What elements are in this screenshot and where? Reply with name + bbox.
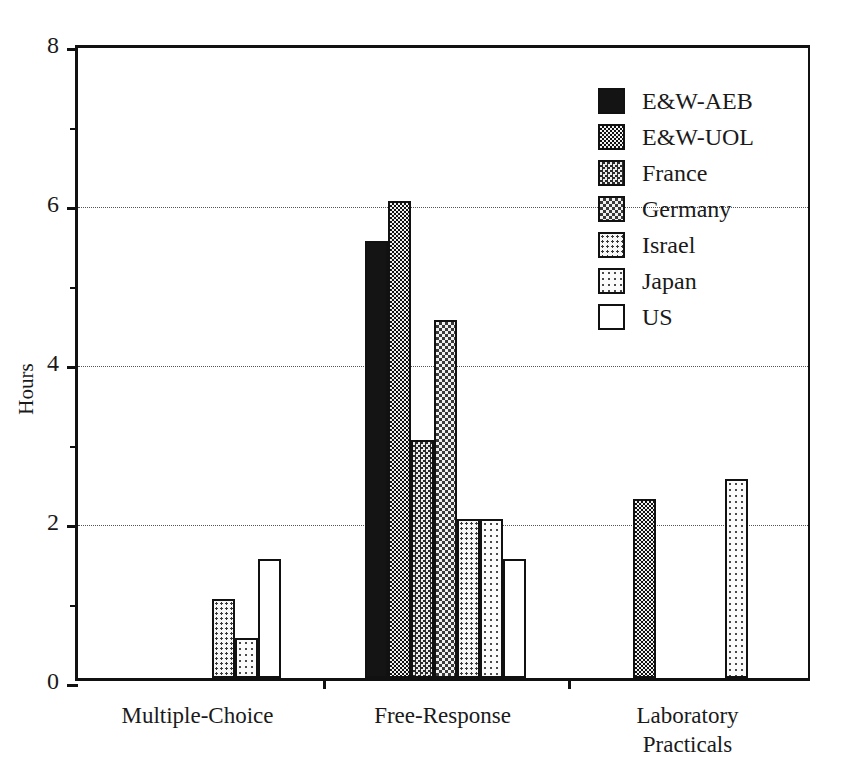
y-tick-label: 8 [47, 33, 59, 57]
y-tick-minor [70, 287, 78, 289]
bar [725, 479, 748, 678]
y-tick-major [67, 48, 78, 51]
legend-label: Israel [642, 233, 695, 257]
legend-label: Japan [642, 269, 697, 293]
x-group-label: Free-Response [374, 702, 511, 731]
legend-swatch-icon [598, 160, 625, 186]
legend-swatch-icon [598, 268, 625, 294]
y-tick-major [67, 684, 78, 687]
bar [388, 201, 411, 678]
y-tick-minor [70, 128, 78, 130]
legend-item: Japan [598, 264, 754, 298]
y-tick-label: 4 [47, 351, 59, 375]
x-group-label: Multiple-Choice [121, 702, 273, 731]
bar [235, 638, 258, 678]
y-tick-label: 2 [47, 510, 59, 534]
y-tick-major [67, 525, 78, 528]
y-axis-title: Hours [14, 363, 39, 414]
legend-swatch-icon [598, 88, 625, 114]
legend-swatch-icon [598, 124, 625, 150]
legend-label: France [642, 161, 707, 185]
legend-label: E&W-UOL [642, 125, 754, 149]
bar [258, 559, 281, 678]
bar-chart: Hours 02468 Multiple-ChoiceFree-Response… [0, 0, 861, 777]
bar [633, 499, 656, 678]
bar [212, 599, 235, 679]
legend-label: Germany [642, 197, 731, 221]
legend-item: France [598, 156, 754, 190]
bar [457, 519, 480, 678]
legend-item: E&W-UOL [598, 120, 754, 154]
legend-item: E&W-AEB [598, 84, 754, 118]
legend-item: Israel [598, 228, 754, 262]
y-tick-major [67, 366, 78, 369]
bar [480, 519, 503, 678]
bar [411, 440, 434, 679]
legend-swatch-icon [598, 304, 625, 330]
y-tick-major [67, 207, 78, 210]
bar [503, 559, 526, 678]
legend: E&W-AEBE&W-UOLFranceGermanyIsraelJapanUS [598, 84, 754, 336]
y-tick-minor [70, 605, 78, 607]
legend-swatch-icon [598, 196, 625, 222]
x-tick [323, 678, 326, 689]
legend-swatch-icon [598, 232, 625, 258]
y-tick-label: 0 [47, 669, 59, 693]
legend-label: E&W-AEB [642, 89, 753, 113]
x-tick [568, 678, 571, 689]
y-tick-minor [70, 446, 78, 448]
y-tick-label: 6 [47, 192, 59, 216]
legend-label: US [642, 305, 673, 329]
bar [434, 320, 457, 678]
legend-item: Germany [598, 192, 754, 226]
legend-item: US [598, 300, 754, 334]
bar [365, 241, 388, 678]
x-group-label: Laboratory Practicals [636, 702, 738, 760]
